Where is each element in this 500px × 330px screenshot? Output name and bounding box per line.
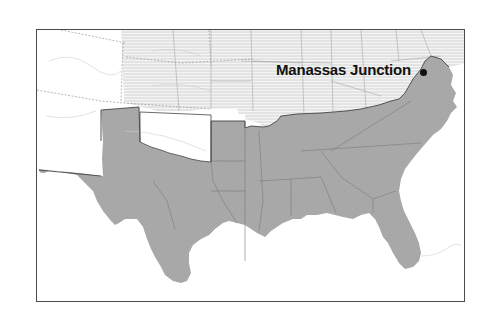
- location-marker-dot-icon[interactable]: [420, 69, 427, 76]
- place-label-manassas-junction: Manassas Junction: [276, 61, 411, 78]
